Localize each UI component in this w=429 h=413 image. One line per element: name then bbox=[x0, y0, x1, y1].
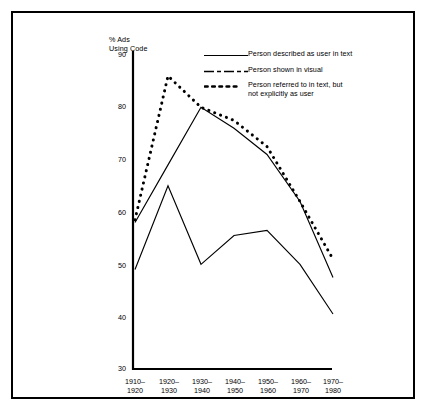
legend-label-described-as-user: Person described as user in text bbox=[248, 50, 352, 59]
legend-label-referred-to-in-text: Person referred to in text, but not expl… bbox=[248, 81, 343, 98]
solid-line-key bbox=[204, 51, 248, 60]
chart-plot-area: % Ads Using Code 90 80 70 60 50 40 30 19… bbox=[13, 13, 417, 401]
y-tick-label-50: 50 bbox=[106, 262, 126, 270]
legend-item-shown-in-visual: Person shown in visual bbox=[204, 66, 394, 76]
legend-item-described-as-user: Person described as user in text bbox=[204, 50, 394, 60]
chart-frame: % Ads Using Code 90 80 70 60 50 40 30 19… bbox=[11, 11, 415, 399]
y-tick-label-70: 70 bbox=[106, 156, 126, 164]
dash-dot-line-key bbox=[204, 67, 248, 76]
legend-label-shown-in-visual: Person shown in visual bbox=[248, 66, 323, 75]
series-paths bbox=[135, 76, 333, 314]
x-tick-label-1970-1980: 1970– 1980 bbox=[313, 378, 353, 395]
dotted-line-key bbox=[204, 82, 248, 91]
y-tick-label-30: 30 bbox=[106, 365, 126, 373]
y-tick-label-40: 40 bbox=[106, 314, 126, 322]
series-line-1 bbox=[135, 107, 333, 277]
legend-item-referred-to-in-text: Person referred to in text, but not expl… bbox=[204, 81, 394, 98]
chart-legend: Person described as user in text Person … bbox=[204, 50, 394, 104]
y-tick-label-80: 80 bbox=[106, 103, 126, 111]
y-tick-label-60: 60 bbox=[106, 209, 126, 217]
y-tick-label-90: 90 bbox=[106, 51, 126, 59]
